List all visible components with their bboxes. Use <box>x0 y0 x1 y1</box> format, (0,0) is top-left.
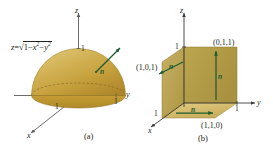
hemisphere-equation: z=√1−x2−y2 <box>11 41 52 51</box>
panel-a-x-tick-label: 1 <box>55 102 59 111</box>
panel-a-x-axis-label: x <box>27 131 31 140</box>
point-label-0-1-1: (0,1,1) <box>213 38 234 47</box>
panel-b-cube-faces: z y x 1 1 1 (1,0,1) (0,1,1) (1,1,0) n n … <box>137 0 273 153</box>
left-face-normal-label: n <box>169 62 173 71</box>
panel-a-z-axis-label: z <box>75 6 78 15</box>
bottom-face-normal-label: n <box>191 105 195 114</box>
panel-a-y-axis-label: y <box>126 90 130 99</box>
math-figure-surface-normals: z=√1−x2−y2 z y x 1 1 1 n (a) <box>0 0 273 153</box>
hemisphere-dome <box>32 48 126 95</box>
equation-y-exponent: 2 <box>48 41 51 47</box>
panel-a-graphic <box>0 0 137 153</box>
panel-b-x-axis-label: x <box>148 126 152 135</box>
panel-a-caption: (a) <box>84 131 93 141</box>
panel-b-z-tick-label: 1 <box>175 42 179 51</box>
face-vertical <box>184 47 237 103</box>
panel-a-normal-label: n <box>100 67 104 76</box>
panel-a-normal-basepoint <box>95 71 97 73</box>
panel-a-hemisphere: z=√1−x2−y2 z y x 1 1 1 n (a) <box>0 0 137 153</box>
point-label-1-1-0: (1,1,0) <box>201 121 222 130</box>
point-label-1-0-1: (1,0,1) <box>136 63 157 72</box>
panel-b-y-axis-label: y <box>257 98 261 107</box>
panel-b-y-tick-label: 1 <box>235 104 239 113</box>
panel-b-graphic <box>137 0 273 153</box>
panel-a-z-tick-label: 1 <box>81 44 85 53</box>
panel-a-y-tick-label: 1 <box>114 97 118 106</box>
vertical-face-normal-label: n <box>218 72 222 81</box>
panel-b-z-axis-label: z <box>180 6 183 15</box>
panel-b-caption: (b) <box>198 133 208 143</box>
panel-b-x-tick-label: 1 <box>154 109 158 118</box>
hemisphere-base-front <box>32 96 126 108</box>
